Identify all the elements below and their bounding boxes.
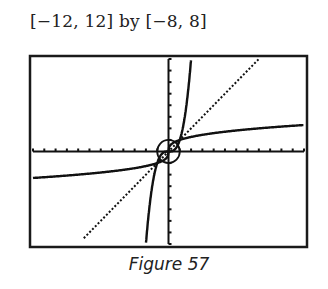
graph-screen <box>0 0 328 289</box>
figure-caption: Figure 57 <box>0 254 328 274</box>
